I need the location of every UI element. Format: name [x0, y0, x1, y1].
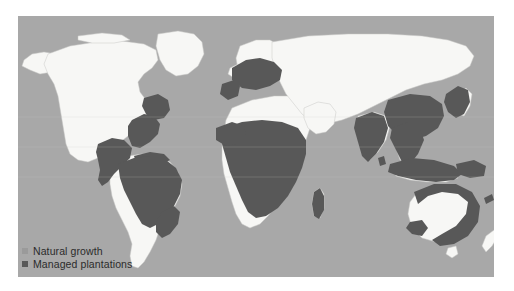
world-map-figure: Natural growth Managed plantations	[18, 16, 494, 277]
legend-item-managed-plantations: Managed plantations	[22, 259, 132, 270]
map-legend: Natural growth Managed plantations	[22, 246, 132, 269]
legend-label-managed-plantations: Managed plantations	[33, 259, 132, 270]
legend-label-natural-growth: Natural growth	[33, 246, 103, 257]
legend-item-natural-growth: Natural growth	[22, 246, 132, 257]
legend-swatch-managed-plantations	[22, 261, 28, 267]
world-map-svg	[18, 16, 494, 277]
legend-swatch-natural-growth	[22, 248, 28, 254]
